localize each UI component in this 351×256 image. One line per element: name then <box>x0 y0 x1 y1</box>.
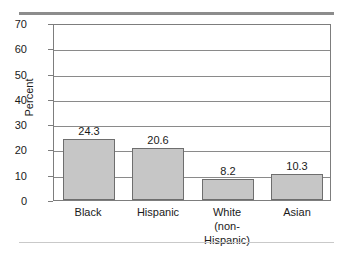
y-tick-mark <box>48 125 53 126</box>
y-tick-label: 0 <box>1 196 27 207</box>
x-category-primary: Hispanic <box>137 206 179 218</box>
y-tick-mark <box>48 201 53 202</box>
x-category-primary: White <box>213 206 241 218</box>
y-tick-label: 70 <box>1 19 27 30</box>
x-category-primary: Asian <box>283 206 311 218</box>
x-category-label: Hispanic <box>123 205 193 219</box>
x-category-primary: Black <box>75 206 102 218</box>
x-category-label: Black <box>53 205 123 219</box>
y-tick-mark <box>48 100 53 101</box>
y-tick-mark <box>48 150 53 151</box>
y-tick-mark <box>48 176 53 177</box>
y-axis-title: Percent <box>24 63 35 133</box>
y-tick-label: 10 <box>1 171 27 182</box>
y-tick-mark <box>48 49 53 50</box>
x-category-label: White(non-Hispanic) <box>192 205 262 247</box>
y-tick-label: 20 <box>1 145 27 156</box>
bottom-divider-rule <box>19 242 334 243</box>
y-axis: 706050403020100 <box>0 24 327 201</box>
y-tick-mark <box>48 75 53 76</box>
y-tick-mark <box>48 24 53 25</box>
y-tick-label: 60 <box>1 44 27 55</box>
x-category-label: Asian <box>262 205 332 219</box>
top-divider-rule <box>19 12 334 15</box>
